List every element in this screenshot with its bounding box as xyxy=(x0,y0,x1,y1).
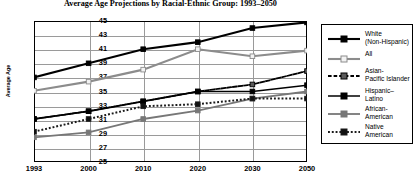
chart-legend: White (Non-Hispanic)AllAsian- Pacific Is… xyxy=(321,24,413,144)
y-axis-title: Average Age xyxy=(5,51,11,111)
data-point-marker xyxy=(34,75,36,80)
legend-item-3[interactable]: Hispanic– Latino xyxy=(327,87,394,102)
data-point-marker xyxy=(86,117,91,122)
data-point-marker xyxy=(305,21,307,25)
legend-label: Native American xyxy=(365,123,393,138)
data-point-marker xyxy=(86,130,91,135)
data-point-marker xyxy=(250,26,255,31)
series-line xyxy=(34,71,307,119)
x-axis-tick-label: 2020 xyxy=(190,164,206,173)
data-point-marker xyxy=(86,61,91,66)
data-point-marker xyxy=(86,109,91,114)
series-1 xyxy=(34,47,307,93)
chart-figure: Average Age Projections by Racial-Ethnic… xyxy=(0,0,416,187)
data-point-marker xyxy=(196,108,201,113)
data-point-marker xyxy=(86,79,91,84)
data-point-marker xyxy=(305,83,307,88)
data-point-marker xyxy=(305,89,307,94)
legend-swatch-icon xyxy=(327,123,361,133)
x-axis-tick-label: 1993 xyxy=(26,164,42,173)
series-line xyxy=(34,49,307,91)
data-point-marker xyxy=(141,67,146,72)
legend-item-2[interactable]: Asian- Pacific Islander xyxy=(327,67,410,82)
legend-label: Asian- Pacific Islander xyxy=(365,67,410,82)
data-point-marker xyxy=(34,117,36,122)
data-point-marker xyxy=(250,96,255,101)
legend-swatch-icon xyxy=(327,87,361,97)
series-line xyxy=(34,22,307,77)
data-point-marker xyxy=(305,96,307,101)
x-axis-tick-label: 2000 xyxy=(80,164,96,173)
data-point-marker xyxy=(250,82,255,87)
data-point-marker xyxy=(196,102,201,107)
legend-label: African- American xyxy=(365,105,393,120)
legend-item-5[interactable]: Native American xyxy=(327,123,393,138)
data-point-marker xyxy=(196,47,201,52)
series-0 xyxy=(34,21,307,80)
legend-item-1[interactable]: All xyxy=(327,50,372,60)
data-point-marker xyxy=(141,117,146,122)
x-axis-tick-label: 2050 xyxy=(299,164,315,173)
legend-swatch-icon xyxy=(327,67,361,77)
chart-title: Average Age Projections by Racial-Ethnic… xyxy=(34,0,307,8)
legend-label: White (Non-Hispanic) xyxy=(365,30,409,45)
legend-label: Hispanic– Latino xyxy=(365,87,394,102)
legend-swatch-icon xyxy=(327,30,361,40)
data-point-marker xyxy=(141,47,146,52)
legend-item-0[interactable]: White (Non-Hispanic) xyxy=(327,30,409,45)
legend-swatch-icon xyxy=(327,105,361,115)
data-point-marker xyxy=(141,104,146,109)
data-point-marker xyxy=(34,135,36,140)
data-point-marker xyxy=(141,99,146,104)
x-axis-tick-label: 2010 xyxy=(135,164,151,173)
data-point-marker xyxy=(196,89,201,94)
legend-label: All xyxy=(365,50,372,58)
legend-swatch-icon xyxy=(327,50,361,60)
legend-item-4[interactable]: African- American xyxy=(327,105,393,120)
data-point-marker xyxy=(196,40,201,45)
data-point-marker xyxy=(34,129,36,134)
x-axis-tick-label: 2030 xyxy=(244,164,260,173)
data-point-marker xyxy=(250,54,255,59)
data-point-marker xyxy=(34,88,36,93)
data-point-marker xyxy=(250,89,255,94)
series-lines xyxy=(34,21,307,162)
series-line xyxy=(34,92,307,138)
data-point-marker xyxy=(305,48,307,53)
data-point-marker xyxy=(305,69,307,74)
